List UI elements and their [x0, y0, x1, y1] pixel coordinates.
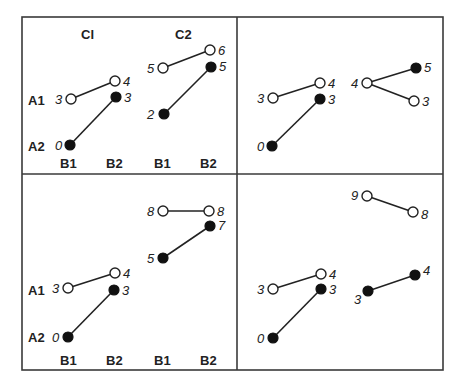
col-label-b1: B1 [60, 156, 77, 171]
line-a2-c1 [272, 99, 320, 146]
value-label: 8 [147, 204, 155, 219]
open-marker [408, 207, 418, 217]
row-label-a2: A2 [28, 330, 45, 345]
col-label-b1: B1 [154, 156, 171, 171]
header-c2: C2 [175, 27, 192, 42]
line-a2-c2 [367, 68, 416, 83]
value-label: 3 [257, 282, 265, 297]
row-label-a1: A1 [28, 93, 45, 108]
open-marker [268, 284, 278, 294]
value-label: 3 [328, 92, 336, 107]
value-label: 3 [422, 94, 430, 109]
open-marker [110, 76, 120, 86]
open-marker [205, 45, 215, 55]
value-label: 8 [421, 207, 429, 222]
col-label-b2: B2 [200, 156, 217, 171]
value-label: 0 [257, 139, 265, 154]
panel-top-right: 3 4 0 3 4 5 3 [257, 60, 432, 154]
line-a1-c2 [163, 50, 210, 68]
value-label: 2 [146, 107, 155, 122]
filled-marker [65, 140, 75, 150]
line-a1-c1 [68, 273, 115, 288]
open-marker [158, 206, 168, 216]
value-label: 0 [52, 330, 60, 345]
line-a2-c2 [368, 275, 415, 291]
open-marker [268, 93, 278, 103]
value-label: 3 [354, 292, 362, 307]
filled-marker [159, 109, 169, 119]
open-marker [158, 63, 168, 73]
col-label-b1: B1 [60, 353, 77, 368]
value-label: 7 [218, 218, 226, 233]
line-a2-c1 [273, 289, 321, 338]
line-a1-c2 [367, 83, 414, 101]
line-a1-c2 [367, 196, 413, 212]
panel-bottom-right: 3 4 0 3 9 8 3 4 [257, 188, 430, 346]
header-c1: Cl [81, 27, 94, 42]
value-label: 6 [218, 43, 226, 58]
filled-marker [206, 62, 216, 72]
value-label: 3 [55, 92, 63, 107]
value-label: 0 [55, 138, 63, 153]
col-label-b2: B2 [200, 353, 217, 368]
panel-top-left: Cl C2 A1 A2 B1 B2 B1 B2 3 4 0 3 5 6 2 5 [28, 27, 227, 171]
filled-marker [316, 284, 326, 294]
open-marker [362, 78, 372, 88]
value-label: 5 [424, 60, 432, 75]
filled-marker [267, 141, 277, 151]
filled-marker [158, 253, 168, 263]
filled-marker [411, 63, 421, 73]
line-a2-c2 [163, 226, 210, 258]
filled-marker [315, 94, 325, 104]
value-label: 4 [123, 266, 130, 281]
filled-marker [410, 270, 420, 280]
panel-bottom-left: A1 A2 B1 B2 B1 B2 3 4 0 3 8 8 5 7 [28, 204, 226, 368]
row-label-a1: A1 [28, 283, 45, 298]
interaction-diagram: Cl C2 A1 A2 B1 B2 B1 B2 3 4 0 3 5 6 2 5 [0, 0, 463, 388]
value-label: 4 [423, 263, 430, 278]
value-label: 5 [219, 59, 227, 74]
open-marker [110, 268, 120, 278]
col-label-b1: B1 [154, 353, 171, 368]
col-label-b2: B2 [106, 156, 123, 171]
value-label: 4 [123, 74, 130, 89]
open-marker [204, 206, 214, 216]
value-label: 3 [257, 91, 265, 106]
filled-marker [109, 285, 119, 295]
line-a2-c2 [164, 67, 211, 114]
value-label: 3 [122, 283, 130, 298]
filled-marker [63, 332, 73, 342]
line-a1-c1 [273, 274, 321, 289]
value-label: 4 [329, 267, 336, 282]
row-label-a2: A2 [28, 139, 45, 154]
line-a1-c1 [273, 83, 320, 98]
outer-frame [22, 17, 443, 370]
filled-marker [111, 92, 121, 102]
value-label: 3 [329, 282, 337, 297]
open-marker [409, 96, 419, 106]
line-a2-c1 [68, 290, 114, 337]
open-marker [63, 283, 73, 293]
open-marker [316, 269, 326, 279]
line-a1-c1 [71, 81, 115, 99]
value-label: 5 [147, 61, 155, 76]
value-label: 9 [351, 188, 358, 203]
value-label: 8 [217, 204, 225, 219]
value-label: 4 [328, 76, 335, 91]
value-label: 4 [351, 76, 358, 91]
open-marker [315, 78, 325, 88]
filled-marker [363, 286, 373, 296]
value-label: 3 [124, 90, 132, 105]
filled-marker [205, 221, 215, 231]
open-marker [362, 191, 372, 201]
open-marker [66, 94, 76, 104]
value-label: 0 [257, 331, 265, 346]
filled-marker [268, 333, 278, 343]
line-a2-c1 [70, 97, 116, 145]
value-label: 3 [52, 281, 60, 296]
col-label-b2: B2 [106, 353, 123, 368]
value-label: 5 [147, 251, 155, 266]
